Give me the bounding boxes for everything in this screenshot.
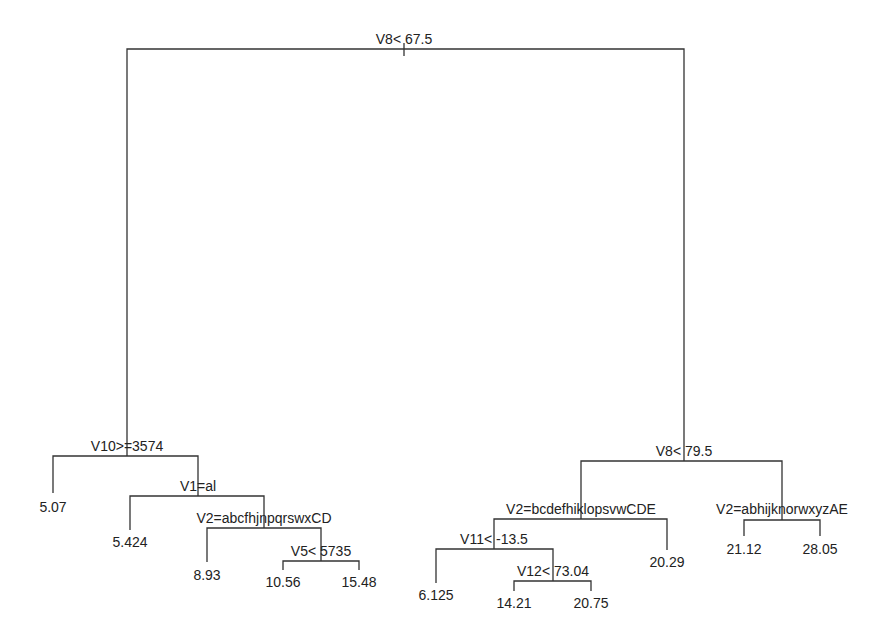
- split-label-v1: V1=al: [180, 478, 216, 494]
- edge-v5: [283, 561, 359, 570]
- edge-v10: [53, 456, 198, 496]
- leaf-value: 5.07: [39, 499, 66, 515]
- tree-edges: [53, 43, 820, 591]
- regression-tree-diagram: V8< 67.5 V10>=3574 V1=al V2=abcfhjnpqrsw…: [0, 0, 888, 631]
- leaf-value: 5.424: [112, 534, 147, 550]
- leaf-value: 8.93: [193, 567, 220, 583]
- split-label-v12: V12< 73.04: [517, 563, 589, 579]
- split-label-v8-inner: V8< 79.5: [656, 443, 713, 459]
- split-label-root: V8< 67.5: [376, 31, 433, 47]
- leaf-value: 20.29: [649, 554, 684, 570]
- edge-root: [127, 49, 684, 461]
- leaf-value: 6.125: [418, 587, 453, 603]
- split-label-v2-mid: V2=bcdefhiklopsvwCDE: [506, 501, 656, 517]
- edge-v2-right: [744, 520, 820, 536]
- leaf-value: 14.21: [496, 595, 531, 611]
- leaf-value: 15.48: [341, 574, 376, 590]
- split-label-v5: V5< 5735: [291, 543, 352, 559]
- edge-v12: [514, 581, 591, 591]
- leaf-value: 20.75: [573, 595, 608, 611]
- split-label-v11: V11< -13.5: [460, 531, 528, 547]
- leaf-value: 21.12: [726, 541, 761, 557]
- leaf-value: 28.05: [802, 541, 837, 557]
- split-label-v2-left: V2=abcfhjnpqrswxCD: [196, 510, 331, 526]
- split-label-v10: V10>=3574: [91, 438, 164, 454]
- split-label-v2-right: V2=abhijknorwxyzAE: [716, 501, 848, 517]
- split-labels: V8< 67.5 V10>=3574 V1=al V2=abcfhjnpqrsw…: [91, 31, 848, 579]
- leaf-value: 10.56: [265, 574, 300, 590]
